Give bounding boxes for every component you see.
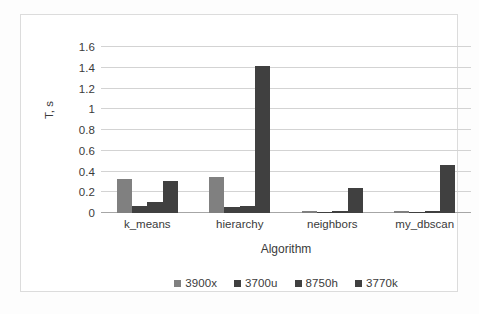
x-tick-label: hierarchy (194, 218, 287, 230)
x-tick-label: k_means (101, 218, 194, 230)
legend-label: 3700u (245, 277, 277, 289)
y-tick-label: 1.6 (43, 41, 95, 53)
bar[interactable] (224, 207, 239, 213)
bar[interactable] (147, 202, 162, 213)
bar[interactable] (394, 211, 409, 213)
bar[interactable] (440, 165, 455, 213)
bar-group (379, 47, 472, 213)
y-axis-tick-labels: 00.20.40.60.811.21.41.6 (39, 47, 95, 213)
legend-item[interactable]: 3900x (174, 277, 217, 289)
x-tick-label: my_dbscan (379, 218, 472, 230)
chart-frame: T, s 00.20.40.60.811.21.41.6 k_meanshier… (20, 14, 458, 292)
y-tick-label: 0.6 (43, 145, 95, 157)
bar[interactable] (255, 66, 270, 213)
legend-label: 3770k (366, 277, 398, 289)
bar[interactable] (348, 188, 363, 213)
y-tick-label: 1.2 (43, 83, 95, 95)
bar[interactable] (425, 211, 440, 213)
y-tick-label: 0.2 (43, 186, 95, 198)
bar[interactable] (132, 206, 147, 213)
legend-swatch-icon (355, 280, 362, 287)
legend-swatch-icon (234, 280, 241, 287)
y-tick-label: 0 (43, 207, 95, 219)
bar-group (286, 47, 379, 213)
page-background: T, s 00.20.40.60.811.21.41.6 k_meanshier… (0, 0, 479, 314)
chart-legend: 3900x3700u8750h3770k (101, 277, 471, 289)
bar[interactable] (317, 212, 332, 213)
x-axis-tick-labels: k_meanshierarchyneighborsmy_dbscan (101, 218, 471, 236)
bar[interactable] (209, 177, 224, 213)
bar[interactable] (117, 179, 132, 213)
legend-item[interactable]: 3700u (234, 277, 277, 289)
x-axis-title: Algorithm (101, 242, 471, 256)
legend-item[interactable]: 3770k (355, 277, 398, 289)
bar[interactable] (163, 181, 178, 213)
legend-label: 3900x (185, 277, 217, 289)
y-tick-label: 0.8 (43, 124, 95, 136)
bar[interactable] (332, 211, 347, 213)
x-tick-label: neighbors (286, 218, 379, 230)
bar[interactable] (302, 211, 317, 213)
legend-swatch-icon (174, 280, 181, 287)
plot-area (101, 47, 471, 213)
y-tick-label: 0.4 (43, 166, 95, 178)
bar-group (101, 47, 194, 213)
bar[interactable] (240, 206, 255, 213)
bar[interactable] (409, 212, 424, 213)
legend-item[interactable]: 8750h (295, 277, 338, 289)
legend-label: 8750h (306, 277, 338, 289)
y-tick-label: 1 (43, 103, 95, 115)
legend-swatch-icon (295, 280, 302, 287)
y-tick-label: 1.4 (43, 62, 95, 74)
bar-group (194, 47, 287, 213)
